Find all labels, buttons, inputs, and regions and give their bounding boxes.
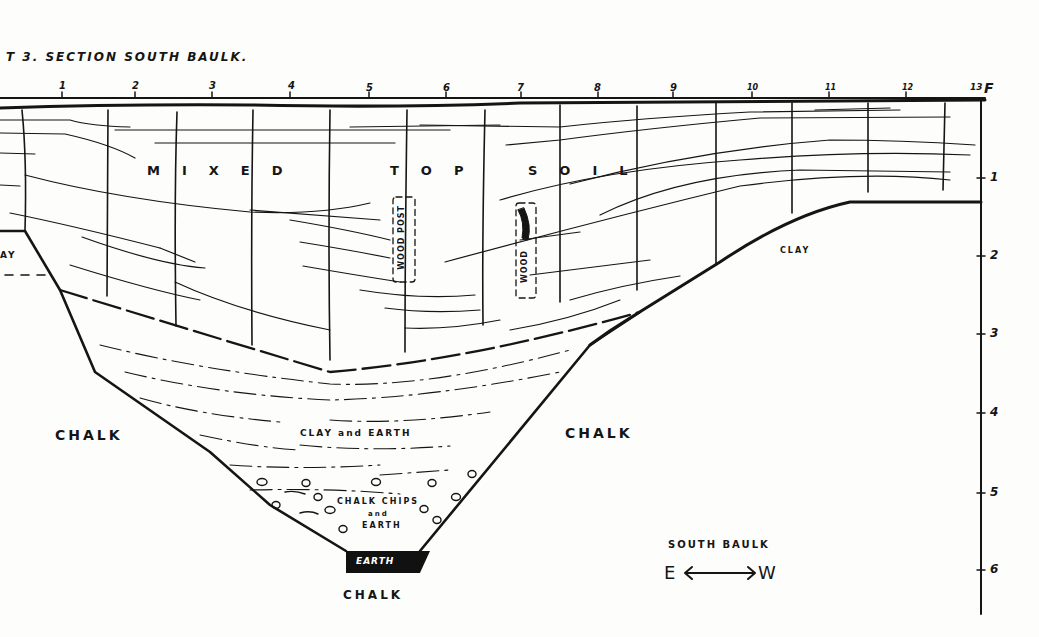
clay-boundary-right — [590, 202, 981, 345]
top-tick-label: 3 — [209, 80, 216, 91]
chalk-label-bottom: CHALK — [343, 588, 403, 602]
wood-label: WOOD — [520, 250, 529, 283]
depth-tick-label: 5 — [990, 485, 998, 499]
top-tick-label: 12 — [902, 83, 913, 92]
chalk-label-right: CHALK — [565, 425, 633, 441]
top-tick-label: 1 — [59, 80, 66, 91]
wood-post-label: WOOD POST — [397, 205, 406, 270]
section-drawing-page: T 3. SECTION SOUTH BAULK. 1 2 3 4 5 6 7 … — [0, 0, 1039, 637]
pit-cut-boundary — [0, 231, 346, 551]
top-tick-label: 9 — [670, 82, 677, 93]
depth-tick-label: 1 — [990, 170, 998, 184]
compass-east-label: E — [664, 562, 675, 583]
layer-label-mixed: MIXED — [147, 163, 304, 178]
top-tick-label: 11 — [825, 83, 836, 92]
compass-title: SOUTH BAULK — [668, 539, 770, 550]
depth-tick-label: 2 — [990, 248, 998, 262]
top-tick-label: 7 — [517, 82, 524, 93]
top-tick-label: 10 — [747, 83, 758, 92]
chalk-chips-earth-label: EARTH — [362, 521, 402, 530]
clay-label-left: AY — [0, 250, 17, 260]
top-tick-label: 8 — [594, 82, 601, 93]
layer-label-top: TOP — [390, 163, 485, 178]
clay-and-earth-label: CLAY and EARTH — [300, 428, 411, 438]
depth-tick-label: 4 — [990, 405, 998, 419]
drawing-title: T 3. SECTION SOUTH BAULK. — [6, 50, 248, 64]
depth-tick-label: 6 — [990, 562, 998, 576]
top-tick-label: 13 — [970, 82, 983, 92]
chalk-chips-and-label: and — [368, 510, 389, 518]
depth-tick-label: 3 — [990, 326, 998, 340]
layer-label-soil: SOIL — [528, 163, 650, 178]
top-tick-label: 6 — [443, 82, 450, 93]
ground-surface-line — [0, 100, 985, 108]
top-tick-label: 4 — [288, 80, 295, 91]
top-tick-label: 5 — [366, 82, 373, 93]
chalk-chips-label: CHALK CHIPS — [337, 497, 419, 506]
scale-unit-label: F — [984, 80, 994, 96]
earth-base-label: EARTH — [356, 556, 394, 566]
section-drawing-svg — [0, 0, 1039, 637]
wood-remnant — [518, 208, 529, 240]
top-tick-label: 2 — [132, 80, 139, 91]
compass-west-label: W — [758, 562, 776, 583]
chalk-label-left: CHALK — [55, 427, 123, 443]
clay-label-right: CLAY — [780, 246, 810, 255]
